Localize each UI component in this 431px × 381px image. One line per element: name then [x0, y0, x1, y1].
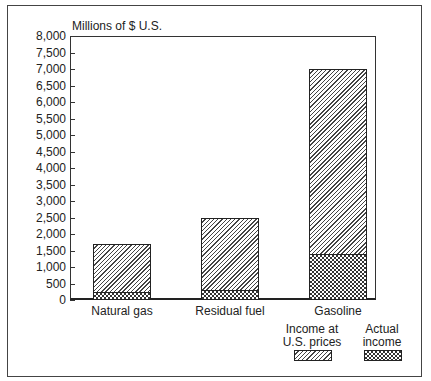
y-tick-label: 3,000	[4, 194, 66, 208]
legend-label-us-prices: Income at U.S. prices	[272, 323, 352, 349]
y-tick-mark	[70, 119, 75, 120]
bar-actual-income	[93, 292, 151, 300]
y-tick-mark	[70, 135, 75, 136]
legend-swatch-hatch	[294, 350, 332, 361]
y-tick-mark	[70, 218, 75, 219]
y-tick-label: 4,000	[4, 161, 66, 175]
y-tick-mark	[70, 185, 75, 186]
y-tick-label: 3,500	[4, 178, 66, 192]
y-tick-label: 7,500	[4, 46, 66, 60]
x-category-label: Residual fuel	[180, 304, 280, 318]
y-tick-mark	[70, 102, 75, 103]
bar-income-us-prices	[201, 218, 259, 292]
y-tick-label: 500	[4, 277, 66, 291]
y-axis-unit-label: Millions of $ U.S.	[72, 19, 162, 33]
y-tick-label: 2,500	[4, 211, 66, 225]
y-tick-label: 5,000	[4, 128, 66, 142]
y-tick-mark	[70, 69, 75, 70]
y-tick-mark	[70, 234, 75, 235]
y-tick-mark	[70, 36, 75, 37]
y-tick-mark	[70, 201, 75, 202]
x-category-label: Natural gas	[72, 304, 172, 318]
y-tick-label: 7,000	[4, 62, 66, 76]
y-tick-mark	[70, 284, 75, 285]
legend-label-actual: Actual income	[350, 323, 414, 349]
y-tick-label: 1,500	[4, 244, 66, 258]
y-tick-label: 0	[4, 293, 66, 307]
y-tick-label: 5,500	[4, 112, 66, 126]
y-tick-label: 6,500	[4, 79, 66, 93]
bar-actual-income	[309, 254, 367, 300]
y-tick-mark	[70, 152, 75, 153]
y-tick-label: 6,000	[4, 95, 66, 109]
y-tick-mark	[70, 53, 75, 54]
y-tick-mark	[70, 300, 75, 301]
bar-income-us-prices	[93, 244, 151, 293]
bar-income-us-prices	[309, 69, 367, 255]
bar-actual-income	[201, 290, 259, 300]
x-category-label: Gasoline	[288, 304, 388, 318]
y-tick-mark	[70, 168, 75, 169]
y-tick-mark	[70, 251, 75, 252]
y-tick-mark	[70, 267, 75, 268]
legend-line: U.S. prices	[272, 336, 352, 349]
legend-swatch-crosshatch	[364, 350, 402, 361]
y-tick-label: 4,500	[4, 145, 66, 159]
y-tick-label: 8,000	[4, 29, 66, 43]
y-tick-mark	[70, 86, 75, 87]
y-tick-label: 2,000	[4, 227, 66, 241]
y-tick-label: 1,000	[4, 260, 66, 274]
legend-line: income	[350, 336, 414, 349]
